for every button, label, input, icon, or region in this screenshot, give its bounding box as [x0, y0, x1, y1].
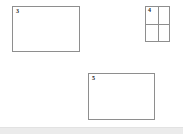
region-box-3[interactable]: 3	[12, 6, 80, 52]
region-box-5-label: 5	[92, 75, 95, 82]
region-box-5[interactable]: 5	[88, 73, 155, 120]
region-box-3-label: 3	[16, 8, 19, 15]
annotation-canvas: 3 4 5	[0, 0, 183, 134]
region-box-4[interactable]: 4	[145, 6, 170, 42]
region-box-4-label: 4	[148, 7, 151, 14]
region-box-4-horizontal-divider	[146, 24, 169, 25]
bottom-scrollbar-band[interactable]	[0, 127, 183, 134]
